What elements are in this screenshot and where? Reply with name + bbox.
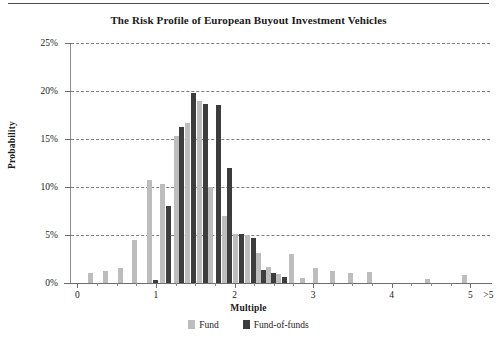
- bar: [147, 180, 152, 283]
- x-tick-label: 0: [62, 290, 92, 301]
- x-tick-minor-mark: [97, 283, 98, 286]
- x-tick-minor-mark: [372, 283, 373, 286]
- bar: [256, 253, 261, 283]
- x-tick-minor-mark: [176, 283, 177, 286]
- bar: [271, 273, 276, 283]
- bar: [179, 127, 184, 283]
- fund-swatch-icon: [188, 320, 195, 329]
- x-tick-minor-mark: [195, 283, 196, 286]
- x-tick-mark: [156, 283, 157, 288]
- bar: [203, 104, 208, 283]
- bar: [160, 184, 165, 283]
- y-tick-label: 15%: [18, 134, 58, 144]
- legend-label: Fund: [199, 319, 219, 331]
- bar: [197, 101, 202, 283]
- fund-of-funds-swatch-icon: [243, 320, 250, 329]
- y-tick-label: 0%: [18, 278, 58, 288]
- bar: [289, 254, 294, 283]
- legend-item: Fund-of-funds: [243, 319, 309, 331]
- bars-layer: [71, 43, 490, 283]
- top-rule-divider: [8, 3, 489, 4]
- bar: [208, 187, 213, 283]
- legend-label: Fund-of-funds: [254, 319, 309, 331]
- x-tick-mark: [470, 283, 471, 288]
- bar: [462, 275, 467, 283]
- legend-item: Fund: [188, 319, 219, 331]
- x-tick-minor-mark: [352, 283, 353, 286]
- bar: [216, 105, 221, 283]
- bar: [251, 238, 256, 283]
- x-tick-minor-mark: [215, 283, 216, 286]
- bar: [367, 272, 372, 283]
- bar: [191, 93, 196, 283]
- x-tick-minor-mark: [451, 283, 452, 286]
- x-tick-label: 4: [377, 290, 407, 301]
- bar: [282, 277, 287, 283]
- x-tick-mark: [392, 283, 393, 288]
- chart-title: The Risk Profile of European Buyout Inve…: [0, 14, 497, 27]
- bar: [227, 168, 232, 283]
- bar: [239, 234, 244, 283]
- bar: [174, 136, 179, 283]
- x-tick-minor-mark: [293, 283, 294, 286]
- bar: [266, 267, 271, 283]
- bar: [313, 268, 318, 283]
- x-tick-minor-mark: [136, 283, 137, 286]
- x-tick-minor-mark: [411, 283, 412, 286]
- x-axis-title: Multiple: [0, 303, 497, 313]
- bar: [261, 270, 266, 283]
- y-tick-label: 25%: [18, 38, 58, 48]
- y-tick-label: 20%: [18, 86, 58, 96]
- bar: [166, 206, 171, 283]
- x-tick-mark: [77, 283, 78, 288]
- y-tick-mark: [65, 283, 71, 284]
- bar: [132, 240, 137, 283]
- bar: [103, 271, 108, 283]
- bar: [425, 279, 430, 283]
- bar: [233, 234, 238, 283]
- chart-figure: The Risk Profile of European Buyout Inve…: [0, 0, 497, 342]
- bar: [118, 268, 123, 283]
- bar: [245, 235, 250, 283]
- bar: [348, 273, 353, 283]
- x-tick-label: 2: [220, 290, 250, 301]
- bar: [153, 280, 158, 283]
- x-tick-minor-mark: [274, 283, 275, 286]
- bar: [222, 216, 227, 283]
- chart-legend: FundFund-of-funds: [0, 319, 497, 331]
- bar: [300, 278, 305, 283]
- bar: [185, 123, 190, 283]
- bar: [88, 273, 93, 283]
- x-tick-minor-mark: [333, 283, 334, 286]
- x-tick-mark: [235, 283, 236, 288]
- x-tick-label: 3: [298, 290, 328, 301]
- x-tick-minor-mark: [117, 283, 118, 286]
- x-tick-minor-mark: [254, 283, 255, 286]
- x-tick-mark: [313, 283, 314, 288]
- bar: [276, 274, 281, 283]
- x-axis-line: [64, 283, 492, 284]
- x-tick-minor-mark: [431, 283, 432, 286]
- y-tick-label: 5%: [18, 230, 58, 240]
- y-tick-label: 10%: [18, 182, 58, 192]
- x-tick-label-overflow: >5: [473, 290, 497, 301]
- bar: [330, 271, 335, 283]
- x-tick-label: 1: [141, 290, 171, 301]
- y-axis-title: Probability: [7, 85, 17, 205]
